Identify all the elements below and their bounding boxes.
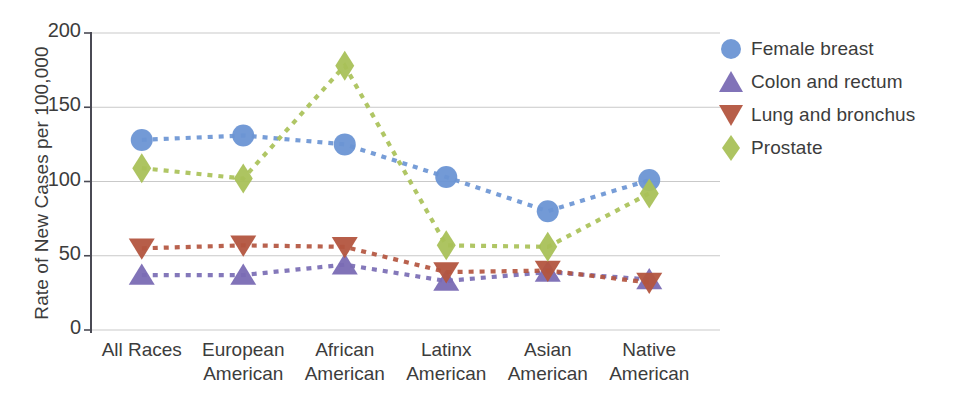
- legend-item-label: Colon and rectum: [751, 71, 903, 93]
- y-tick-label: 150: [25, 93, 81, 116]
- data-point-circle: [537, 200, 559, 222]
- series-lung-and-bronchus: [129, 236, 663, 294]
- y-tick-label: 100: [25, 168, 81, 191]
- circle-marker-icon: [718, 36, 744, 62]
- legend-item-prostate[interactable]: Prostate: [718, 131, 915, 164]
- data-point-diamond: [132, 153, 151, 183]
- cancer-incidence-chart: Rate of New Cases per 100,000 Female bre…: [0, 0, 954, 412]
- marker-shape: [722, 135, 740, 161]
- legend-item-colon-and-rectum[interactable]: Colon and rectum: [718, 65, 915, 98]
- legend-item-label: Lung and bronchus: [751, 104, 915, 126]
- triangle-down-marker-icon: [718, 102, 744, 128]
- x-tick-label-native-american: NativeAmerican: [584, 338, 714, 387]
- legend-item-label: Female breast: [751, 38, 874, 60]
- legend-item-label: Prostate: [751, 137, 823, 159]
- data-point-triangle-down: [129, 239, 155, 260]
- legend-item-female-breast[interactable]: Female breast: [718, 32, 915, 65]
- y-tick-label: 0: [25, 316, 81, 339]
- data-point-diamond: [538, 232, 557, 262]
- series-line: [142, 66, 650, 247]
- data-point-circle: [334, 133, 356, 155]
- diamond-marker-icon: [718, 135, 744, 161]
- marker-shape: [721, 39, 741, 59]
- series-line: [142, 265, 650, 281]
- chart-legend: Female breastColon and rectumLung and br…: [718, 32, 915, 164]
- series-line: [142, 135, 650, 211]
- marker-shape: [719, 71, 743, 92]
- marker-shape: [719, 105, 743, 126]
- y-tick-label: 50: [25, 242, 81, 265]
- data-point-circle: [435, 166, 457, 188]
- series-prostate: [132, 51, 659, 262]
- triangle-up-marker-icon: [718, 69, 744, 95]
- data-point-circle: [131, 129, 153, 151]
- data-point-triangle-up: [129, 264, 155, 285]
- data-point-circle: [232, 124, 254, 146]
- x-tick-label-line: American: [584, 362, 714, 386]
- x-tick-label-line: Native: [584, 338, 714, 362]
- series-line: [142, 245, 650, 282]
- legend-item-lung-and-bronchus[interactable]: Lung and bronchus: [718, 98, 915, 131]
- y-tick-label: 200: [25, 19, 81, 42]
